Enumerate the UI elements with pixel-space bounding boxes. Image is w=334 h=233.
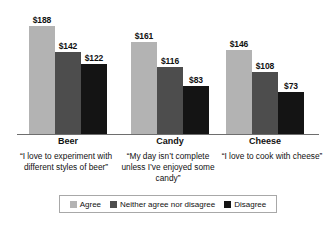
bar-candy-disagree[interactable]	[183, 86, 209, 134]
category-label-row: Beer Candy Cheese	[0, 136, 334, 150]
legend-label: Neither agree nor disagree	[120, 200, 215, 209]
bar-slot-candy-agree: $161	[131, 2, 157, 134]
bar-value-label: $83	[174, 75, 218, 85]
legend-item-disagree[interactable]: Disagree	[224, 200, 266, 209]
category-quote-beer: “I love to experiment with different sty…	[12, 151, 120, 173]
legend-label: Disagree	[234, 200, 266, 209]
bar-slot-beer-disagree: $122	[81, 2, 107, 134]
category-label-candy: Candy	[131, 136, 209, 146]
bar-group-cheese: $146 $108 $73	[226, 2, 304, 134]
chart-legend: Agree Neither agree nor disagree Disagre…	[59, 195, 277, 213]
category-label-beer: Beer	[29, 136, 107, 146]
bar-group-beer: $188 $142 $122	[29, 2, 107, 134]
bar-slot-beer-agree: $188	[29, 2, 55, 134]
plot-area: $188 $142 $122 $161 $116 $83	[0, 0, 334, 136]
bar-beer-neither[interactable]	[55, 52, 81, 134]
bar-slot-cheese-neither: $108	[252, 2, 278, 134]
bar-beer-disagree[interactable]	[81, 64, 107, 134]
bar-slot-candy-neither: $116	[157, 2, 183, 134]
legend-swatch-icon	[70, 201, 77, 208]
bar-slot-candy-disagree: $83	[183, 2, 209, 134]
legend-swatch-icon	[110, 201, 117, 208]
legend-item-agree[interactable]: Agree	[70, 200, 101, 209]
bar-slot-beer-neither: $142	[55, 2, 81, 134]
legend-item-neither[interactable]: Neither agree nor disagree	[110, 200, 215, 209]
category-label-cheese: Cheese	[226, 136, 304, 146]
category-axis-line	[17, 134, 319, 135]
bar-value-label: $73	[269, 81, 313, 91]
category-quote-candy: “My day isn’t complete unless I’ve enjoy…	[118, 151, 218, 185]
bar-slot-cheese-disagree: $73	[278, 2, 304, 134]
grouped-bar-chart: $188 $142 $122 $161 $116 $83	[0, 0, 334, 233]
category-quote-cheese: “I love to cook with cheese”	[218, 151, 326, 162]
bar-group-candy: $161 $116 $83	[131, 2, 209, 134]
category-quote-row: “I love to experiment with different sty…	[0, 151, 334, 191]
legend-label: Agree	[80, 200, 101, 209]
bar-value-label: $122	[72, 53, 116, 63]
bar-cheese-disagree[interactable]	[278, 92, 304, 134]
legend-swatch-icon	[224, 201, 231, 208]
